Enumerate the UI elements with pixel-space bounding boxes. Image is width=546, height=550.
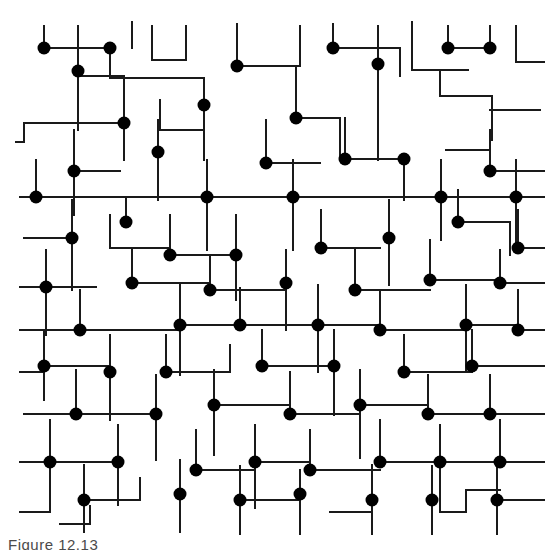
lattice-node: [120, 216, 133, 229]
lattice-node: [284, 408, 297, 421]
lattice-node: [150, 408, 163, 421]
lattice-node: [354, 399, 367, 412]
lattice-node: [398, 153, 411, 166]
lattice-node: [452, 216, 465, 229]
lattice-node: [327, 42, 340, 55]
lattice-node: [426, 494, 439, 507]
lattice-node: [484, 42, 497, 55]
lattice-node: [484, 165, 497, 178]
lattice-node: [231, 60, 244, 73]
lattice-node: [160, 366, 173, 379]
figure-container: Figure 12.13: [0, 0, 546, 550]
lattice-node: [466, 360, 479, 373]
lattice-node: [78, 494, 91, 507]
lattice-diagram: [0, 0, 546, 550]
lattice-node: [372, 58, 385, 71]
lattice-node: [208, 399, 221, 412]
lattice-node: [510, 191, 523, 204]
lattice-node: [435, 191, 448, 204]
lattice-node: [256, 360, 269, 373]
lattice-node: [460, 319, 473, 332]
lattice-node: [349, 284, 362, 297]
lattice-node: [512, 242, 525, 255]
lattice-node: [494, 277, 507, 290]
lattice-node: [230, 249, 243, 262]
lattice-node: [112, 456, 125, 469]
lattice-node: [315, 242, 328, 255]
lattice-node: [126, 277, 139, 290]
lattice-node: [374, 456, 387, 469]
lattice-node: [249, 456, 262, 469]
lattice-node: [339, 153, 352, 166]
lattice-node: [422, 408, 435, 421]
lattice-node: [234, 319, 247, 332]
lattice-node: [68, 165, 81, 178]
lattice-node: [152, 146, 165, 159]
lattice-node: [494, 456, 507, 469]
lattice-node: [104, 42, 117, 55]
lattice-node: [424, 274, 437, 287]
lattice-node: [38, 42, 51, 55]
lattice-node: [38, 360, 51, 373]
lattice-node: [398, 366, 411, 379]
lattice-node: [294, 488, 307, 501]
lattice-node: [442, 42, 455, 55]
lattice-node: [328, 360, 341, 373]
lattice-node: [66, 232, 79, 245]
lattice-node: [201, 191, 214, 204]
lattice-node: [312, 319, 325, 332]
diagram-background: [0, 0, 546, 550]
lattice-node: [374, 324, 387, 337]
lattice-node: [44, 456, 57, 469]
lattice-node: [512, 324, 525, 337]
lattice-node: [174, 488, 187, 501]
lattice-node: [190, 464, 203, 477]
lattice-node: [72, 65, 85, 78]
lattice-node: [287, 191, 300, 204]
lattice-node: [30, 191, 43, 204]
lattice-node: [74, 324, 87, 337]
lattice-node: [204, 284, 217, 297]
lattice-node: [234, 494, 247, 507]
lattice-node: [491, 494, 504, 507]
lattice-node: [280, 277, 293, 290]
lattice-node: [434, 456, 447, 469]
lattice-node: [198, 99, 211, 112]
lattice-node: [70, 408, 83, 421]
lattice-node: [174, 319, 187, 332]
lattice-node: [484, 408, 497, 421]
lattice-node: [118, 117, 131, 130]
lattice-node: [366, 494, 379, 507]
lattice-node: [304, 464, 317, 477]
lattice-node: [40, 281, 53, 294]
lattice-node: [260, 157, 273, 170]
lattice-node: [164, 249, 177, 262]
figure-caption: Figure 12.13: [8, 536, 98, 550]
lattice-node: [104, 366, 117, 379]
lattice-node: [290, 112, 303, 125]
lattice-node: [383, 232, 396, 245]
